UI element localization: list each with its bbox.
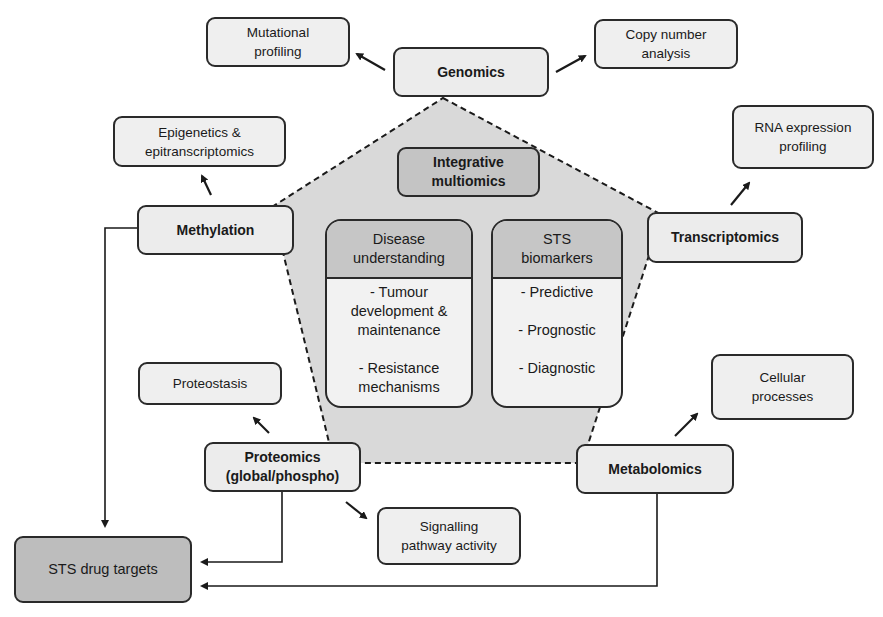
arrow-metabolomics-cellular <box>675 414 697 436</box>
signalling-pathway-activity-box: Signalling pathway activity <box>377 507 521 565</box>
integrative-multiomics-label: Integrative multiomics <box>432 153 506 191</box>
methylation-node: Methylation <box>137 205 294 255</box>
multiomics-diagram: Integrative multiomics Disease understan… <box>0 0 883 617</box>
arrow-proteomics-proteostasis <box>254 418 269 433</box>
integrative-multiomics-box: Integrative multiomics <box>397 147 540 197</box>
sts-biomarkers-heading: STS biomarkers <box>493 221 621 279</box>
resistance-mechanisms-item: - Resistance mechanisms <box>327 359 471 397</box>
sts-drug-targets-box: STS drug targets <box>14 536 192 603</box>
copy-number-analysis-box: Copy number analysis <box>594 19 738 69</box>
sts-biomarkers-body: - Predictive - Prognostic - Diagnostic <box>493 279 621 378</box>
rna-expression-profiling-box: RNA expression profiling <box>732 105 874 169</box>
disease-understanding-card: Disease understanding - Tumour developme… <box>325 219 473 408</box>
arrow-methylation-drugtargets <box>105 228 137 526</box>
genomics-node: Genomics <box>393 47 549 97</box>
arrow-transcriptomics-rna <box>731 183 749 205</box>
disease-understanding-body: - Tumour development & maintenance - Res… <box>327 279 471 397</box>
tumour-development-item: - Tumour development & maintenance <box>327 283 471 340</box>
transcriptomics-node: Transcriptomics <box>647 212 803 263</box>
mutational-profiling-box: Mutational profiling <box>206 17 350 67</box>
arrow-proteomics-drugtargets <box>202 491 282 562</box>
metabolomics-node: Metabolomics <box>576 444 734 494</box>
disease-understanding-heading: Disease understanding <box>327 221 471 279</box>
arrow-genomics-mutational <box>357 54 385 70</box>
arrow-proteomics-signalling <box>346 502 366 518</box>
prognostic-item: - Prognostic <box>493 321 621 340</box>
diagnostic-item: - Diagnostic <box>493 359 621 378</box>
arrow-methylation-epigenetics <box>202 176 211 195</box>
proteomics-node: Proteomics (global/phospho) <box>204 442 361 492</box>
predictive-item: - Predictive <box>493 283 621 302</box>
cellular-processes-box: Cellular processes <box>711 354 854 420</box>
sts-biomarkers-card: STS biomarkers - Predictive - Prognostic… <box>491 219 623 408</box>
proteostasis-box: Proteostasis <box>138 362 282 405</box>
arrow-genomics-copynumber <box>556 56 585 72</box>
epigenetics-box: Epigenetics & epitranscriptomics <box>113 116 286 167</box>
